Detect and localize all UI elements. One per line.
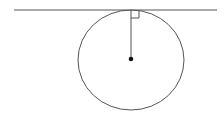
right-angle-marker bbox=[131, 10, 139, 18]
center-point bbox=[129, 57, 134, 62]
tangent-diagram bbox=[0, 0, 224, 113]
